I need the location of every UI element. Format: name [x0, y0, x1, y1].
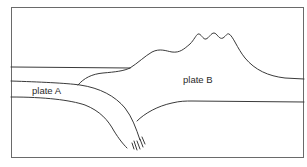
plate-b-base: [137, 101, 304, 121]
plate-b-mountain-profile: [130, 33, 304, 79]
plate-b-label: plate B: [183, 74, 213, 85]
plate-a-melting-tip: [132, 137, 145, 150]
plate-b-wedge-edge: [78, 68, 130, 85]
subduction-diagram: plate A plate B: [0, 0, 307, 167]
plate-a-label: plate A: [32, 85, 62, 96]
plate-a-top-edge: [11, 81, 140, 140]
ocean-surface-line: [11, 67, 130, 68]
plate-a-bottom-edge: [11, 97, 127, 148]
